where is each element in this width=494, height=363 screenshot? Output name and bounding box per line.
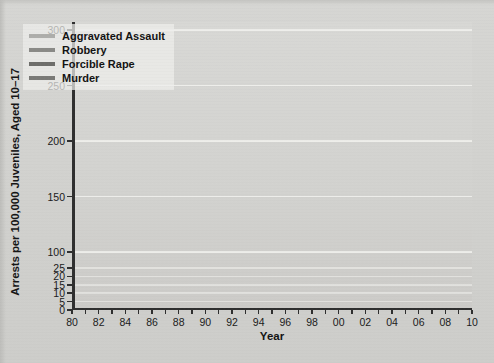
chart-canvas: Arrests per 100,000 Juveniles, Aged 10–1… xyxy=(0,0,494,363)
x-tick xyxy=(285,310,287,314)
chart-legend: Aggravated AssaultRobberyForcible RapeMu… xyxy=(23,24,174,90)
x-tick-label: 08 xyxy=(439,316,451,328)
gridline xyxy=(74,140,472,142)
gridline xyxy=(74,284,472,286)
y-tick xyxy=(67,292,72,294)
x-tick xyxy=(125,310,127,314)
x-tick-label: 80 xyxy=(66,316,78,328)
legend-item-murder[interactable]: Murder xyxy=(29,71,165,85)
gridline xyxy=(74,292,472,294)
x-tick-label: 96 xyxy=(279,316,291,328)
x-tick-label: 00 xyxy=(333,316,345,328)
x-tick xyxy=(191,310,193,314)
y-tick xyxy=(67,267,72,269)
x-tick xyxy=(151,310,153,314)
y-tick xyxy=(67,301,72,303)
y-tick xyxy=(67,284,72,286)
x-tick xyxy=(351,310,353,314)
x-tick-label: 10 xyxy=(466,316,478,328)
y-tick xyxy=(67,251,72,253)
x-tick xyxy=(165,310,167,314)
y-tick-label: 150 xyxy=(47,191,65,203)
gridline xyxy=(74,196,472,198)
x-tick xyxy=(111,310,113,314)
legend-swatch-icon xyxy=(29,76,55,79)
x-tick-label: 98 xyxy=(306,316,318,328)
x-tick xyxy=(338,310,340,314)
gridline xyxy=(74,267,472,269)
x-tick-label: 86 xyxy=(146,316,158,328)
x-tick xyxy=(325,310,327,314)
y-tick-label: 100 xyxy=(47,246,65,258)
x-tick-label: 82 xyxy=(93,316,105,328)
x-tick xyxy=(231,310,233,314)
x-tick xyxy=(365,310,367,314)
legend-label: Robbery xyxy=(62,44,107,56)
x-tick xyxy=(218,310,220,314)
x-tick xyxy=(245,310,247,314)
y-tick xyxy=(67,140,72,142)
legend-label: Murder xyxy=(62,72,99,84)
x-tick xyxy=(271,310,273,314)
x-tick-label: 90 xyxy=(199,316,211,328)
x-tick-label: 02 xyxy=(359,316,371,328)
x-tick-label: 88 xyxy=(173,316,185,328)
legend-item-forcible-rape[interactable]: Forcible Rape xyxy=(29,57,165,71)
x-tick xyxy=(178,310,180,314)
x-tick xyxy=(258,310,260,314)
x-tick xyxy=(471,310,473,314)
x-axis-title: Year xyxy=(72,330,472,342)
y-axis-title-text: Arrests per 100,000 Juveniles, Aged 10–1… xyxy=(9,68,21,296)
gridline xyxy=(74,251,472,253)
legend-item-robbery[interactable]: Robbery xyxy=(29,43,165,57)
legend-label: Forcible Rape xyxy=(62,58,135,70)
x-tick xyxy=(85,310,87,314)
x-tick xyxy=(311,310,313,314)
x-tick xyxy=(445,310,447,314)
x-tick xyxy=(405,310,407,314)
legend-label: Aggravated Assault xyxy=(62,30,165,42)
x-tick-label: 94 xyxy=(253,316,265,328)
x-tick xyxy=(205,310,207,314)
x-tick xyxy=(458,310,460,314)
y-tick xyxy=(67,196,72,198)
x-tick xyxy=(418,310,420,314)
y-tick-label: 200 xyxy=(47,135,65,147)
x-tick xyxy=(138,310,140,314)
x-tick xyxy=(391,310,393,314)
legend-item-aggravated-assault[interactable]: Aggravated Assault xyxy=(29,29,165,43)
legend-swatch-icon xyxy=(29,48,55,51)
legend-swatch-icon xyxy=(29,34,55,37)
x-tick-label: 92 xyxy=(226,316,238,328)
y-tick-label: 25 xyxy=(53,262,65,274)
x-tick-label: 04 xyxy=(386,316,398,328)
x-tick xyxy=(98,310,100,314)
x-tick xyxy=(298,310,300,314)
top-edge-shading xyxy=(0,0,494,5)
x-tick xyxy=(378,310,380,314)
x-tick xyxy=(431,310,433,314)
gridline xyxy=(74,301,472,303)
x-tick-label: 06 xyxy=(413,316,425,328)
x-tick xyxy=(71,310,73,314)
gridline xyxy=(74,276,472,278)
legend-swatch-icon xyxy=(29,62,55,65)
y-tick xyxy=(67,276,72,278)
x-tick-label: 84 xyxy=(119,316,131,328)
